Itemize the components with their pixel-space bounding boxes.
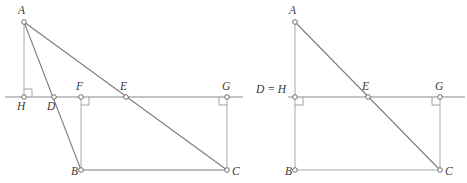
left-point-e (124, 95, 129, 100)
left-point-b (79, 168, 84, 173)
right-label-dh: D = H (255, 83, 287, 95)
right-point-c (438, 168, 443, 173)
right-point-e (366, 95, 371, 100)
left-point-f (79, 95, 84, 100)
right-point-b (293, 168, 298, 173)
right-label-e: E (361, 80, 369, 92)
right-point-a (293, 20, 298, 25)
right-point-g (438, 95, 443, 100)
left-label-b: B (71, 165, 78, 177)
geometry-canvas: ABCDEFGHABCD = HEG (0, 0, 467, 183)
left-label-d: D (46, 100, 56, 112)
right-label-a: A (288, 4, 297, 16)
left-point-a (22, 20, 27, 25)
left-label-e: E (119, 80, 127, 92)
left-point-h (22, 95, 27, 100)
right-label-b: B (285, 165, 292, 177)
left-diagram: ABCDEFGH (5, 4, 243, 177)
left-point-d (52, 95, 57, 100)
geometry-figure: ABCDEFGHABCD = HEG (0, 0, 467, 183)
right-point-dh (293, 95, 298, 100)
left-label-c: C (232, 165, 240, 177)
left-label-a: A (17, 4, 26, 16)
right-diagram: ABCD = HEG (255, 4, 465, 177)
left-point-c (225, 168, 230, 173)
left-label-h: H (16, 100, 26, 112)
right-label-c: C (445, 165, 453, 177)
left-label-g: G (222, 80, 231, 92)
left-point-g (225, 95, 230, 100)
right-label-g: G (435, 80, 444, 92)
left-label-f: F (75, 80, 84, 92)
